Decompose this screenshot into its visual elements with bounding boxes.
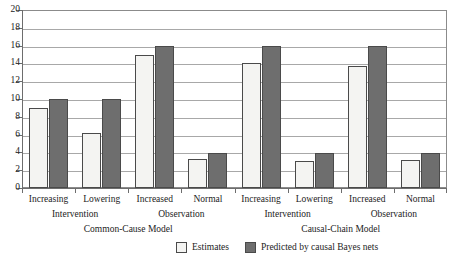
x-axis-group-label: Intervention	[238, 209, 338, 220]
y-axis-tick-label: 4	[2, 147, 20, 157]
x-axis-tick	[341, 188, 342, 193]
x-axis-tick	[394, 188, 395, 193]
bar-predicted	[315, 153, 334, 188]
bar-estimates	[188, 159, 207, 188]
bar-estimates	[135, 55, 154, 189]
bar-estimates	[348, 66, 367, 188]
bar-estimates	[242, 63, 261, 188]
y-axis-tick-label: 8	[2, 112, 20, 122]
bar-estimates	[295, 161, 314, 188]
chart-legend: EstimatesPredicted by causal Bayes nets	[176, 240, 394, 254]
y-axis-tick-label: 0	[2, 183, 20, 193]
legend-label: Predicted by causal Bayes nets	[261, 242, 378, 252]
y-axis-tick-label: 2	[2, 165, 20, 175]
y-axis-tick-label: 18	[2, 23, 20, 33]
x-axis-tick	[75, 188, 76, 193]
x-axis-tick	[181, 188, 182, 193]
bar-chart-figure: 02468101214161820 IncreasingLoweringIncr…	[0, 0, 466, 262]
x-axis-group-label: Intervention	[25, 209, 125, 220]
x-axis-tick	[288, 188, 289, 193]
x-axis-tick	[235, 188, 236, 193]
y-axis-tick-label: 14	[2, 58, 20, 68]
x-axis-category-label: Normal	[380, 194, 460, 205]
bar-predicted	[262, 46, 281, 188]
y-axis-tick-label: 10	[2, 94, 20, 104]
x-axis-group-label: Observation	[344, 209, 444, 220]
bar-estimates	[82, 133, 101, 188]
bar-estimates	[29, 108, 48, 188]
x-axis-tick	[22, 188, 23, 193]
y-axis-tick-label: 20	[2, 5, 20, 15]
legend-swatch-estimates	[176, 242, 187, 253]
y-axis-tick-label: 16	[2, 41, 20, 51]
legend-label: Estimates	[192, 242, 229, 252]
bar-predicted	[208, 153, 227, 188]
legend-swatch-predicted	[245, 242, 256, 253]
x-axis-panel-label: Causal-Chain Model	[271, 224, 411, 235]
y-axis-tick-labels: 02468101214161820	[0, 0, 20, 262]
bars-layer	[22, 10, 447, 188]
x-axis-panel-label: Common-Cause Model	[58, 224, 198, 235]
legend-entry: Predicted by causal Bayes nets	[245, 242, 378, 253]
bar-estimates	[401, 160, 420, 188]
bar-predicted	[368, 46, 387, 188]
bar-predicted	[421, 153, 440, 188]
x-axis-tick	[446, 188, 447, 193]
bar-predicted	[155, 46, 174, 188]
legend-entry: Estimates	[176, 242, 229, 253]
y-axis-tick-label: 6	[2, 130, 20, 140]
bar-predicted	[102, 99, 121, 188]
x-axis-tick	[128, 188, 129, 193]
x-axis-group-label: Observation	[131, 209, 231, 220]
bar-predicted	[49, 99, 68, 188]
y-axis-tick-label: 12	[2, 76, 20, 86]
